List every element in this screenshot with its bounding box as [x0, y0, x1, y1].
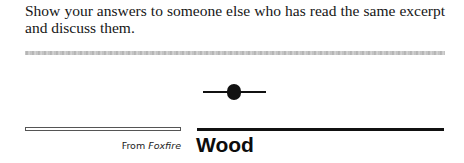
- source-rule: [25, 127, 181, 131]
- source-prefix: From: [122, 140, 146, 151]
- instruction-paragraph: Show your answers to someone else who ha…: [25, 2, 445, 36]
- gray-divider: [25, 51, 445, 55]
- section-title: Wood: [196, 134, 254, 156]
- source-work: Foxfire: [148, 140, 181, 151]
- ornament-dot-top: [227, 84, 241, 91]
- section-divider-ornament-icon: [203, 82, 266, 102]
- source-attribution: From Foxfire: [25, 139, 181, 153]
- ornament-dot-bottom: [227, 93, 241, 100]
- title-rule: [197, 128, 444, 131]
